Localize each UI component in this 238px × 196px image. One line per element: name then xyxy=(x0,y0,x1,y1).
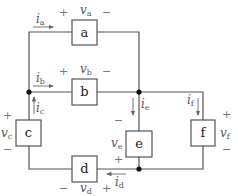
element-c-label: c xyxy=(25,125,32,140)
current-arrows xyxy=(33,27,198,174)
node-bottom xyxy=(136,166,141,171)
circuit-diagram: a b c d e f ia ib ic ie if id va vb vc v… xyxy=(0,0,238,196)
vb-minus: − xyxy=(102,65,111,78)
ve-minus: − xyxy=(114,114,123,127)
node-left xyxy=(26,89,31,94)
vc-plus: + xyxy=(3,109,12,122)
element-e-label: e xyxy=(135,136,143,151)
voltage-vf-label: vf xyxy=(220,126,231,141)
voltage-vc-label: vc xyxy=(1,126,13,141)
va-plus: + xyxy=(59,6,68,19)
voltage-ve-label: ve xyxy=(111,136,123,151)
node-right-top xyxy=(136,89,141,94)
vb-plus: + xyxy=(59,65,68,78)
voltage-vd-label: vd xyxy=(80,181,92,196)
voltage-va-label: va xyxy=(80,3,92,18)
ve-plus: + xyxy=(114,153,123,166)
vd-plus: + xyxy=(102,182,111,195)
vc-minus: − xyxy=(3,143,12,156)
element-a-label: a xyxy=(81,25,89,40)
current-if-label: if xyxy=(187,93,195,108)
current-ie-label: ie xyxy=(141,97,150,112)
current-ib-label: ib xyxy=(36,71,45,86)
wire-top-right xyxy=(97,32,139,92)
vf-plus: + xyxy=(222,108,231,121)
element-d-label: d xyxy=(80,161,88,176)
vf-minus: − xyxy=(222,143,231,156)
current-id-label: id xyxy=(115,175,124,190)
voltage-vb-label: vb xyxy=(80,62,92,77)
current-ic-label: ic xyxy=(36,101,45,116)
va-minus: − xyxy=(102,6,111,19)
current-ia-label: ia xyxy=(36,12,45,27)
wire-c-bottom xyxy=(29,146,72,169)
vd-minus: − xyxy=(59,182,68,195)
element-b-label: b xyxy=(80,84,88,99)
